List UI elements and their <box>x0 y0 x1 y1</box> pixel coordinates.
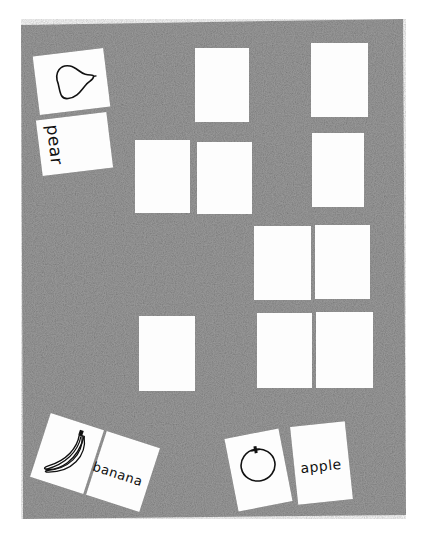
face-down-card-6[interactable] <box>254 226 311 300</box>
apple-word-card[interactable]: apple <box>290 421 353 504</box>
face-down-card-8[interactable] <box>139 316 195 391</box>
pear-word: pear <box>43 123 68 166</box>
face-down-card-3[interactable] <box>135 140 190 213</box>
apple-word: apple <box>300 456 343 476</box>
pear-word-card[interactable]: pear <box>36 112 113 176</box>
banana-word: banana <box>91 459 145 489</box>
face-down-card-5[interactable] <box>312 133 364 207</box>
face-down-card-4[interactable] <box>197 142 252 214</box>
face-down-card-10[interactable] <box>316 312 373 388</box>
pear-icon <box>33 48 111 115</box>
pear-picture-card[interactable] <box>33 48 111 115</box>
game-board: pear banana apple <box>0 0 427 544</box>
face-down-card-9[interactable] <box>257 313 312 388</box>
face-down-card-2[interactable] <box>311 43 368 117</box>
face-down-card-1[interactable] <box>195 48 249 122</box>
face-down-card-7[interactable] <box>315 225 370 299</box>
